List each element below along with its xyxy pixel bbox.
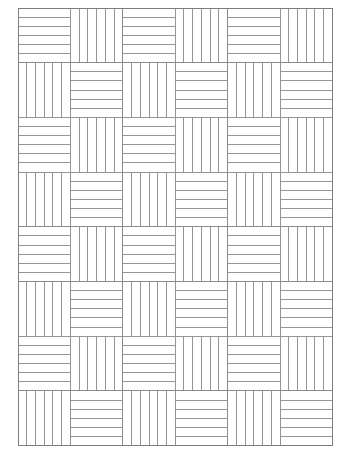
pattern-cell bbox=[175, 8, 227, 63]
pattern-cell bbox=[18, 391, 70, 446]
pattern-cell bbox=[280, 336, 332, 391]
pattern-cell bbox=[123, 117, 175, 172]
pattern-cell bbox=[123, 336, 175, 391]
pattern-cell bbox=[280, 391, 332, 446]
pattern-cell bbox=[228, 282, 280, 337]
pattern-cell bbox=[18, 172, 70, 227]
pattern-cell bbox=[228, 63, 280, 118]
pattern-cell bbox=[70, 282, 122, 337]
pattern-cell bbox=[280, 63, 332, 118]
pattern-cell bbox=[123, 282, 175, 337]
pattern-cell bbox=[70, 227, 122, 282]
pattern-cell bbox=[228, 391, 280, 446]
pattern-cell bbox=[123, 391, 175, 446]
pattern-cell bbox=[175, 172, 227, 227]
pattern-cell bbox=[280, 172, 332, 227]
pattern-cell bbox=[70, 391, 122, 446]
pattern-cell bbox=[70, 63, 122, 118]
pattern-cell bbox=[123, 227, 175, 282]
pattern-canvas bbox=[0, 0, 346, 456]
pattern-cell bbox=[18, 282, 70, 337]
pattern-cell bbox=[175, 227, 227, 282]
pattern-cell bbox=[18, 8, 70, 63]
pattern-cell bbox=[123, 63, 175, 118]
pattern-cell bbox=[280, 227, 332, 282]
pattern-cell bbox=[70, 172, 122, 227]
pattern-cell bbox=[18, 336, 70, 391]
pattern-cell bbox=[70, 117, 122, 172]
pattern-cell bbox=[123, 172, 175, 227]
pattern-cell bbox=[280, 117, 332, 172]
pattern-cell bbox=[175, 117, 227, 172]
pattern-cell bbox=[70, 8, 122, 63]
pattern-cell bbox=[175, 336, 227, 391]
pattern-cell bbox=[175, 391, 227, 446]
pattern-cell bbox=[228, 336, 280, 391]
pattern-cell bbox=[228, 172, 280, 227]
pattern-cell bbox=[228, 227, 280, 282]
pattern-cell bbox=[18, 117, 70, 172]
pattern-cell bbox=[70, 336, 122, 391]
pattern-cell bbox=[228, 117, 280, 172]
pattern-cell bbox=[175, 282, 227, 337]
pattern-cell bbox=[18, 63, 70, 118]
parquet-pattern-svg bbox=[0, 0, 346, 456]
pattern-cell bbox=[18, 227, 70, 282]
pattern-cell bbox=[123, 8, 175, 63]
pattern-cell bbox=[280, 8, 332, 63]
pattern-cell bbox=[175, 63, 227, 118]
pattern-cell bbox=[228, 8, 280, 63]
pattern-cells-layer bbox=[18, 8, 332, 446]
pattern-cell bbox=[280, 282, 332, 337]
